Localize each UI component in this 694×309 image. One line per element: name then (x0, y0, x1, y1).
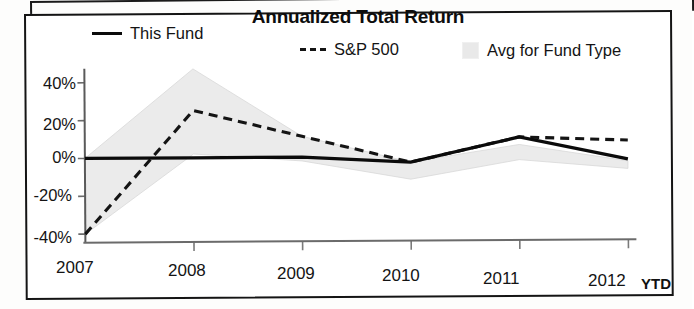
y-tick-label-40: 40% (14, 74, 76, 93)
ytd-annotation: YTD (641, 275, 671, 292)
y-axis-line (84, 69, 85, 243)
y-tick-label-neg20: -20% (10, 186, 72, 205)
x-axis-line (83, 239, 636, 242)
y-tick-label-0: 0% (14, 148, 76, 167)
y-tick-label-20: 20% (14, 115, 76, 134)
x-tick-label-2010: 2010 (382, 266, 420, 286)
x-tick-label-2012: 2012 (588, 271, 626, 291)
x-tick-label-2008: 2008 (168, 261, 206, 281)
y-tick-label-neg40: -40% (10, 228, 72, 247)
x-tick-label-2009: 2009 (277, 264, 315, 284)
x-tick-label-2011: 2011 (483, 269, 520, 289)
x-tick-label-2007: 2007 (56, 258, 94, 278)
